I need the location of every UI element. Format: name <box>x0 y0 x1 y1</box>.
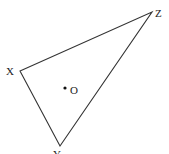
point-o <box>63 86 66 89</box>
label-o: O <box>70 84 78 96</box>
label-y: Y <box>53 148 61 154</box>
triangle-xyz <box>20 12 152 146</box>
label-z: Z <box>155 7 162 19</box>
label-x: X <box>6 65 14 77</box>
triangle-diagram: X Y Z O <box>0 0 169 154</box>
